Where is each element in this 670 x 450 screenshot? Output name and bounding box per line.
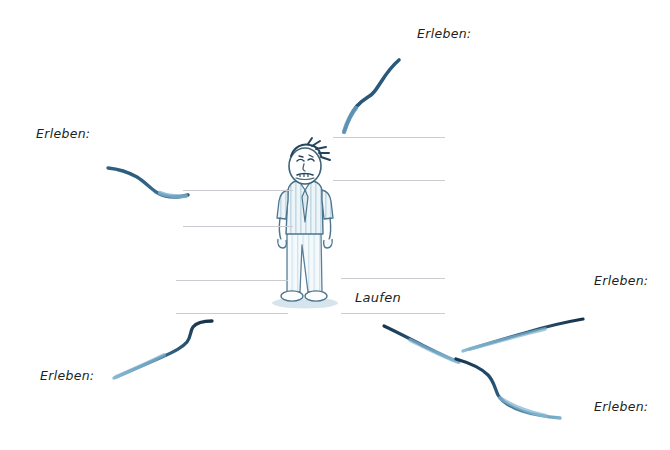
prompt-label-right: Erleben: bbox=[594, 275, 648, 288]
stroke-left bbox=[108, 168, 188, 197]
stroke-top bbox=[344, 60, 399, 132]
writing-rule bbox=[341, 278, 445, 279]
standing-man-figure bbox=[272, 138, 338, 309]
stroke-right-down bbox=[456, 359, 560, 418]
prompt-label-bottom-right: Erleben: bbox=[594, 401, 648, 414]
stroke-bottom-mid bbox=[384, 326, 459, 362]
writing-rule bbox=[176, 280, 288, 281]
worksheet-canvas: Erleben: Erleben: Erleben: Erleben: Erle… bbox=[0, 0, 670, 450]
answer-laufen: Laufen bbox=[355, 291, 401, 304]
prompt-label-left: Erleben: bbox=[36, 128, 90, 141]
writing-rule bbox=[341, 313, 445, 314]
worksheet-artwork bbox=[0, 0, 670, 450]
stroke-right-up bbox=[463, 319, 583, 351]
writing-rule bbox=[183, 226, 293, 227]
writing-rule bbox=[183, 190, 293, 191]
prompt-label-top: Erleben: bbox=[417, 28, 471, 41]
writing-rule bbox=[333, 180, 445, 181]
prompt-label-bottom-left: Erleben: bbox=[40, 370, 94, 383]
writing-rule bbox=[176, 313, 288, 314]
stroke-bottom-left bbox=[114, 321, 212, 378]
writing-rule bbox=[333, 137, 445, 138]
